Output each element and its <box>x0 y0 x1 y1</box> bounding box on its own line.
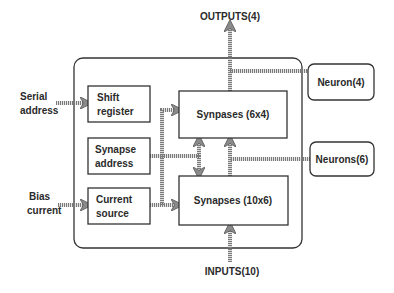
shift-register-label-2: register <box>97 106 134 117</box>
neuron-4-label: Neuron(4) <box>317 77 364 88</box>
synapse-address-label-1: Synapse <box>95 144 137 155</box>
synapses-10x6-block: Synapses (10x6) <box>179 176 288 225</box>
block-diagram: Shift register Synapse address Current s… <box>0 0 394 293</box>
neurons6-bus <box>230 141 310 176</box>
inputs-label: INPUTS(10) <box>205 266 259 277</box>
current-source-block: Current source <box>88 188 150 224</box>
synapse-address-bus <box>150 141 199 173</box>
current-source-label-2: source <box>96 208 129 219</box>
serial-address-label-1: Serial <box>20 91 47 102</box>
synapse-address-block: Synapse address <box>88 138 150 174</box>
current-source-label-1: Current <box>96 194 133 205</box>
synapses-10x6-label: Synapses (10x6) <box>194 195 272 206</box>
shift-register-block: Shift register <box>88 86 150 122</box>
serial-address-label-2: address <box>20 105 59 116</box>
neurons-6-label: Neurons(6) <box>316 154 369 165</box>
bias-current-label-1: Bias <box>29 191 51 202</box>
synapses-6x4-label: Synpases (6x4) <box>197 109 270 120</box>
neurons-6-block: Neurons(6) <box>310 142 374 176</box>
bias-current-label-2: current <box>27 205 62 216</box>
outputs-label: OUTPUTS(4) <box>200 11 260 22</box>
synapses-6x4-block: Synpases (6x4) <box>179 91 287 138</box>
synapse-address-label-2: address <box>95 158 134 169</box>
neuron-4-block: Neuron(4) <box>308 64 374 100</box>
shift-register-label-1: Shift <box>97 92 120 103</box>
